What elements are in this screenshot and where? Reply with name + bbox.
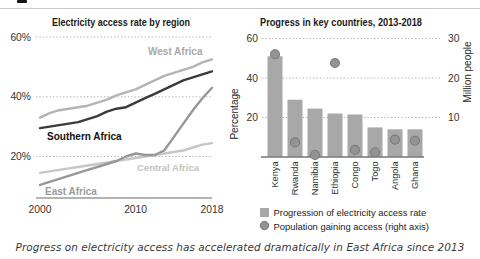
category-label-ethiopia: Ethiopia — [330, 161, 340, 195]
category-label-namibia: Namibia — [310, 161, 320, 196]
x-tick-label-2018: 2018 — [201, 204, 224, 215]
y-tick-label-40: 40% — [10, 91, 31, 102]
bar-namibia — [308, 109, 323, 157]
x-tick-label-2010: 2010 — [124, 204, 147, 215]
bar-rwanda — [288, 100, 303, 157]
right-tick-label-10: 10 — [448, 112, 460, 123]
bar-chart-right-tick-labels: 102030 — [448, 33, 460, 123]
right-tick-label-30: 30 — [448, 33, 460, 44]
series-label-west-africa: West Africa — [148, 46, 203, 57]
left-tick-label-40: 40 — [247, 73, 259, 84]
line-chart: Electricity access rate by region 20%40%… — [10, 16, 223, 215]
bar-chart-title: Progress in key countries, 2013-2018 — [260, 16, 422, 28]
series-label-southern-africa: Southern Africa — [47, 131, 122, 142]
legend-dot-swatch-icon — [260, 221, 268, 229]
legend-dot-label: Population gaining access (right axis) — [274, 221, 429, 232]
dot-angola — [391, 135, 400, 144]
y-tick-label-20: 20% — [10, 151, 31, 162]
category-label-ghana: Ghana — [410, 161, 420, 189]
left-tick-label-20: 20 — [247, 112, 259, 123]
bar-kenya — [268, 56, 283, 157]
left-axis-label: Percentage — [229, 88, 240, 140]
charts-canvas: Electricity access rate by region 20%40%… — [0, 0, 480, 240]
right-axis-label: Million people — [462, 41, 473, 103]
line-chart-x-tick-labels: 200020102018 — [29, 204, 224, 215]
series-label-east-africa: East Africa — [45, 186, 97, 197]
x-tick-label-2000: 2000 — [29, 204, 52, 215]
series-label-central-africa: Central Africa — [137, 162, 200, 173]
figure-caption: Progress on electricity access has accel… — [0, 241, 480, 253]
dot-congo — [351, 145, 360, 154]
category-label-togo: Togo — [370, 162, 380, 182]
figure: Electricity access rate by region 20%40%… — [0, 0, 480, 259]
line-chart-series-labels: West AfricaSouthern AfricaCentral Africa… — [45, 46, 203, 197]
dot-namibia — [311, 151, 320, 160]
dot-rwanda — [291, 138, 300, 147]
right-tick-label-20: 20 — [448, 73, 460, 84]
y-tick-label-60: 60% — [10, 32, 31, 43]
category-label-kenya: Kenya — [270, 161, 280, 188]
dot-ethiopia — [331, 59, 340, 68]
category-label-congo: Congo — [350, 162, 360, 189]
line-chart-title: Electricity access rate by region — [52, 16, 190, 28]
legend-bar-label: Progression of electricity access rate — [274, 207, 427, 218]
dot-kenya — [271, 50, 280, 59]
left-tick-label-60: 60 — [247, 33, 259, 44]
category-label-rwanda: Rwanda — [290, 161, 300, 196]
dot-ghana — [411, 136, 420, 145]
legend-bar-swatch-icon — [260, 208, 269, 217]
series-line-west-africa — [40, 59, 212, 117]
bar-chart: Progress in key countries, 2013-2018 Per… — [229, 16, 473, 232]
bar-chart-left-tick-labels: 204060 — [247, 33, 259, 123]
legend: Progression of electricity access rate P… — [260, 207, 429, 232]
category-label-angola: Angola — [390, 161, 400, 190]
bar-chart-category-labels: KenyaRwandaNamibiaEthiopiaCongoTogoAngol… — [270, 161, 420, 196]
dot-togo — [371, 148, 380, 157]
line-chart-y-tick-labels: 20%40%60% — [10, 32, 31, 163]
bar-ethiopia — [328, 114, 343, 158]
